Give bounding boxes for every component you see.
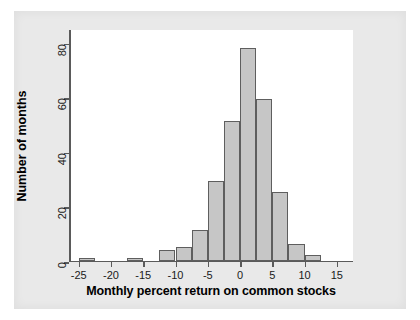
y-tick-label: 40 [56,153,68,165]
histogram-bar [127,258,143,261]
x-tick-mark [111,262,113,267]
x-tick-mark [176,262,178,267]
x-tick-mark [305,262,307,267]
histogram-bar [192,230,208,260]
x-tick-mark [240,262,242,267]
histogram-bar [240,48,256,261]
x-tick-label: -10 [168,269,184,281]
x-tick-label: -25 [71,269,87,281]
histogram-bar [208,181,224,260]
histogram-bar [272,192,288,260]
y-tick-label: 20 [56,207,68,219]
y-tick-label: 0 [56,262,68,268]
x-tick-label: 0 [237,269,243,281]
y-tick-label: 60 [56,98,68,110]
histogram-bar [79,258,95,261]
x-tick-label: 5 [269,269,275,281]
x-tick-mark [143,262,145,267]
x-tick-label: -15 [135,269,151,281]
x-tick-label: 15 [331,269,343,281]
x-tick-label: -5 [203,269,213,281]
x-tick-label: 10 [298,269,310,281]
y-axis-line [69,30,71,262]
histogram-figure: 020406080 -25-20-15-10-5051015 Monthly p… [0,0,420,320]
histogram-bar [288,244,304,260]
x-axis-title: Monthly percent return on common stocks [69,284,353,298]
y-tick-label: 80 [56,44,68,56]
histogram-bar [305,255,321,260]
x-tick-mark [79,262,81,267]
histogram-bar [224,121,240,260]
x-tick-label: -20 [103,269,119,281]
plot-area: 020406080 -25-20-15-10-5051015 [69,30,353,262]
x-tick-mark [208,262,210,267]
x-tick-mark [337,262,339,267]
x-tick-mark [272,262,274,267]
histogram-bar [176,247,192,261]
histogram-bar [256,99,272,260]
histogram-bar [159,250,175,261]
y-axis-title: Number of months [15,90,29,201]
